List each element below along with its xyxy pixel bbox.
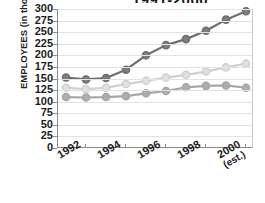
x-tick-mark <box>85 144 86 148</box>
y-tick-label: 275 <box>5 15 53 26</box>
data-point <box>162 42 169 49</box>
y-axis-tick-labels: 3002752502252001751501251007550250 <box>3 9 53 148</box>
data-point <box>202 68 209 75</box>
gridline <box>58 32 252 33</box>
y-tick-label: 100 <box>5 96 53 107</box>
data-point <box>122 93 129 100</box>
gridline <box>58 44 252 45</box>
x-axis-tick-labels: 19921994199619982000(est.) <box>57 148 253 203</box>
gridline <box>58 113 252 114</box>
data-point <box>222 82 229 89</box>
y-tick-label: 150 <box>5 73 53 84</box>
data-point <box>62 93 69 100</box>
line-chart: 1991-2000 EMPLOYEES (in thousands) 30027… <box>0 0 265 203</box>
x-tick-mark <box>245 144 246 148</box>
plot-area <box>57 9 253 148</box>
y-tick-label: 250 <box>5 26 53 37</box>
gridline <box>58 90 252 91</box>
y-tick-label: 50 <box>5 119 53 130</box>
data-point <box>82 94 89 101</box>
data-point <box>122 80 129 87</box>
gridline <box>58 125 252 126</box>
y-tick-label: 225 <box>5 38 53 49</box>
gridline <box>58 9 252 10</box>
series-line <box>66 85 246 97</box>
gridline <box>58 67 252 68</box>
y-tick-label: 75 <box>5 107 53 118</box>
y-tick-label: 0 <box>5 142 53 153</box>
gridline <box>58 102 252 103</box>
gridline <box>58 21 252 22</box>
x-tick-mark <box>205 144 206 148</box>
data-point <box>182 71 189 78</box>
x-tick-mark <box>165 144 166 148</box>
y-tick-label: 200 <box>5 49 53 60</box>
y-tick-label: 125 <box>5 84 53 95</box>
chart-title: 1991-2000 <box>95 0 245 3</box>
y-tick-label: 25 <box>5 130 53 141</box>
data-point <box>202 27 209 34</box>
data-point <box>202 82 209 89</box>
gridline <box>58 79 252 80</box>
x-tick-sublabel: (est.) <box>221 148 248 170</box>
x-tick-mark <box>125 144 126 148</box>
gridline <box>58 55 252 56</box>
y-tick-label: 175 <box>5 61 53 72</box>
data-point <box>102 93 109 100</box>
data-point <box>182 36 189 43</box>
y-tick-label: 300 <box>5 3 53 14</box>
